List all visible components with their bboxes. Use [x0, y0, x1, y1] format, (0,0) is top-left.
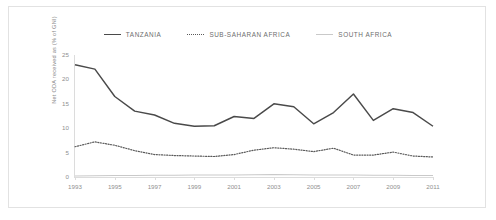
x-tick-mark	[274, 177, 275, 180]
legend-label-sub-saharan-africa: SUB-SAHARAN AFRICA	[209, 31, 290, 38]
legend-line-icon-south-africa	[316, 34, 333, 35]
x-tick-mark	[75, 177, 76, 180]
y-tick-label: 20	[53, 75, 69, 82]
x-axis-line	[74, 177, 434, 178]
legend-line-icon-tanzania	[104, 34, 121, 35]
x-tick-label: 2005	[301, 183, 327, 190]
plot-area	[75, 55, 433, 177]
x-tick-mark	[353, 177, 354, 180]
x-tick-label: 2003	[261, 183, 287, 190]
y-tick-label: 10	[53, 124, 69, 131]
series-line-tanzania	[75, 65, 433, 126]
x-tick-mark	[194, 177, 195, 180]
x-tick-mark	[314, 177, 315, 180]
legend-label-tanzania: TANZANIA	[126, 31, 162, 38]
x-tick-label: 1999	[181, 183, 207, 190]
legend-line-icon-sub-saharan-africa	[187, 34, 204, 35]
x-tick-label: 2001	[221, 183, 247, 190]
series-line-sub-saharan-africa	[75, 142, 433, 157]
y-tick-label: 0	[53, 173, 69, 180]
x-tick-label: 2007	[340, 183, 366, 190]
series-lines	[75, 55, 433, 177]
x-tick-label: 2011	[420, 183, 446, 190]
legend-entry-sub-saharan-africa[interactable]: SUB-SAHARAN AFRICA	[187, 31, 290, 38]
x-tick-mark	[115, 177, 116, 180]
series-line-south-africa	[75, 175, 433, 176]
y-tick-label: 15	[53, 100, 69, 107]
x-tick-mark	[155, 177, 156, 180]
chart-legend: TANZANIA SUB-SAHARAN AFRICA SOUTH AFRICA	[9, 25, 487, 43]
chart-figure: TANZANIA SUB-SAHARAN AFRICA SOUTH AFRICA…	[8, 6, 486, 208]
x-tick-label: 1995	[102, 183, 128, 190]
y-tick-label: 25	[53, 51, 69, 58]
legend-entry-south-africa[interactable]: SOUTH AFRICA	[316, 31, 392, 38]
legend-entry-tanzania[interactable]: TANZANIA	[104, 31, 162, 38]
x-tick-mark	[393, 177, 394, 180]
x-tick-label: 1997	[142, 183, 168, 190]
y-tick-label: 5	[53, 149, 69, 156]
legend-label-south-africa: SOUTH AFRICA	[338, 31, 392, 38]
x-tick-label: 1993	[62, 183, 88, 190]
x-tick-mark	[234, 177, 235, 180]
x-tick-label: 2009	[380, 183, 406, 190]
x-tick-mark	[433, 177, 434, 180]
